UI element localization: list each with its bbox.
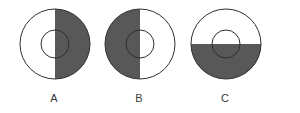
figure-label-a: A [9,92,99,105]
circle-c-shaded-half [190,44,262,80]
circle-a-shaded-half [55,8,91,80]
figure-label-b: B [94,92,184,105]
diagram-item-a: A [9,0,99,113]
figure-label-c: C [180,92,270,105]
circle-a-graphic [19,8,91,80]
circle-b-shaded-half [104,8,140,80]
fraction-circles-figure: A B C [0,0,300,113]
diagram-item-c: C [180,0,270,113]
circle-c-graphic [190,8,262,80]
diagram-item-b: B [94,0,184,113]
circle-b-graphic [104,8,176,80]
